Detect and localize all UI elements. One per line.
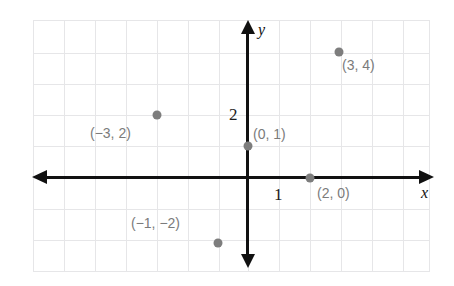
data-point-label-2-0: (2, 0) [317,186,350,200]
data-point-label-0-1: (0, 1) [253,127,286,141]
y-axis-tick-label-2: 2 [229,106,238,123]
x-axis-right-arrow-icon [419,170,434,184]
y-axis-down-arrow-icon [241,254,255,268]
data-point-label-neg1-neg2: (−1, −2) [131,216,180,230]
gridline-horizontal [33,20,430,21]
gridline-horizontal [33,240,430,241]
data-point-neg3-2 [153,111,162,120]
gridline-horizontal [33,84,430,85]
gridline-horizontal [33,271,430,272]
y-axis-label: y [258,22,265,38]
x-axis-line [44,176,426,179]
coordinate-plane-figure: y x 2 1 (3, 4) (−3, 2) (0, 1) (2, 0) (−1… [0,0,454,286]
data-point-2-0 [306,174,315,183]
data-point-0-1 [244,142,253,151]
data-point-label-3-4: (3, 4) [342,58,375,72]
data-point-neg1-neg2 [214,239,223,248]
data-point-label-neg3-2: (−3, 2) [90,126,131,140]
y-axis-up-arrow-icon [241,20,255,34]
x-axis-label: x [421,185,428,201]
gridline-horizontal [33,146,430,147]
gridline-horizontal [33,53,430,54]
data-point-3-4 [335,48,344,57]
gridline-horizontal [33,209,430,210]
x-axis-left-arrow-icon [32,170,47,184]
x-axis-tick-label-1: 1 [274,186,283,203]
